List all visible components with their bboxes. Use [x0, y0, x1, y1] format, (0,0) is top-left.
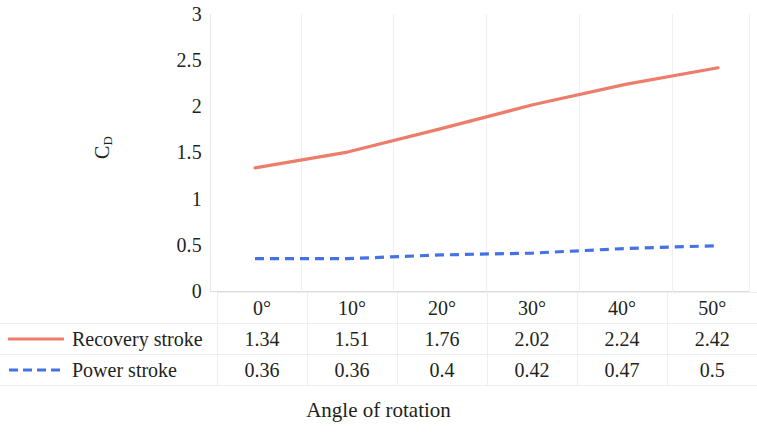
y-tick-label: 2: [138, 96, 202, 116]
table-category-header: 30°: [487, 293, 577, 324]
table-cell: 0.5: [667, 355, 757, 386]
chart-figure: CD 3 2.5 2 1.5 1 0.5 0: [0, 0, 757, 432]
plot-area: [210, 14, 750, 292]
table-cell: 0.47: [577, 355, 667, 386]
series-line-recovery-stroke: [255, 68, 718, 168]
chart-data-table: 0° 10° 20° 30° 40° 50° Recovery stroke: [0, 292, 757, 386]
y-axis-tick-labels: 3 2.5 2 1.5 1 0.5 0: [130, 0, 202, 306]
y-tick-label: 2.5: [138, 50, 202, 70]
table-category-header: 40°: [577, 293, 667, 324]
table-row-categories: 0° 10° 20° 30° 40° 50°: [0, 293, 757, 324]
legend-item-power-stroke: Power stroke: [0, 355, 217, 386]
legend-label: Recovery stroke: [72, 328, 203, 350]
table-cell: 0.36: [307, 355, 397, 386]
y-axis-title-base: C: [91, 146, 113, 159]
y-tick-label: 1: [138, 189, 202, 209]
y-axis-title-subscript: D: [100, 136, 115, 145]
legend-item-recovery-stroke: Recovery stroke: [0, 324, 217, 355]
table-row: Recovery stroke 1.34 1.51 1.76 2.02 2.24…: [0, 324, 757, 355]
x-axis-title: Angle of rotation: [0, 398, 757, 423]
table-category-header: 20°: [397, 293, 487, 324]
y-axis-title: CD: [91, 118, 114, 178]
legend-swatch-dashed-line-icon: [8, 363, 64, 377]
legend-swatch-solid-line-icon: [8, 332, 64, 346]
y-tick-label: 1.5: [138, 142, 202, 162]
series-line-power-stroke: [255, 246, 718, 259]
series-lines: [210, 14, 750, 292]
y-tick-label: 0.5: [138, 235, 202, 255]
table-corner-cell: [0, 293, 217, 324]
table-cell: 1.34: [217, 324, 307, 355]
table-category-header: 50°: [667, 293, 757, 324]
table-cell: 1.51: [307, 324, 397, 355]
legend-label: Power stroke: [72, 359, 177, 381]
table-cell: 2.42: [667, 324, 757, 355]
y-tick-label: 3: [138, 4, 202, 24]
table-category-header: 0°: [217, 293, 307, 324]
table-cell: 0.42: [487, 355, 577, 386]
table-category-header: 10°: [307, 293, 397, 324]
table-row: Power stroke 0.36 0.36 0.4 0.42 0.47 0.5: [0, 355, 757, 386]
table-cell: 2.24: [577, 324, 667, 355]
table-cell: 1.76: [397, 324, 487, 355]
table-cell: 2.02: [487, 324, 577, 355]
table-cell: 0.4: [397, 355, 487, 386]
table-cell: 0.36: [217, 355, 307, 386]
